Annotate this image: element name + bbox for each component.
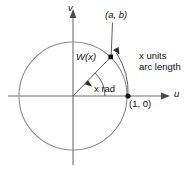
wrapping-function-label: W(x) bbox=[76, 51, 96, 62]
arc-length-arrowhead bbox=[113, 47, 120, 55]
point-marker-wx bbox=[108, 55, 113, 60]
arc-length-units-word: units bbox=[144, 50, 167, 61]
point-label-leader-line bbox=[111, 23, 112, 56]
point-coordinates-label: (a, b) bbox=[105, 9, 127, 20]
u-axis-arrowhead bbox=[161, 93, 170, 100]
arc-length-line1: x units bbox=[139, 50, 166, 61]
angle-label-unit: rad bbox=[99, 83, 115, 94]
u-axis-label: u bbox=[174, 88, 179, 99]
radius-arrowhead bbox=[85, 80, 93, 86]
angle-label: x rad bbox=[94, 83, 115, 94]
unit-circle-diagram: v u (a, b) W(x) x rad x units arc length… bbox=[0, 0, 194, 172]
unit-point-label: (1, 0) bbox=[129, 98, 151, 109]
arc-length-label: x units arc length bbox=[139, 50, 181, 72]
v-axis-label: v bbox=[68, 2, 73, 13]
arc-length-line2: arc length bbox=[139, 61, 181, 72]
